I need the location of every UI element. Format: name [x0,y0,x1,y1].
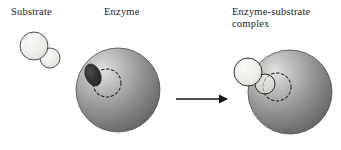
substrate-big-circle [20,32,48,60]
free-enzyme-group [76,48,160,132]
enzyme-sphere [76,48,160,132]
enzyme-substrate-diagram: Substrate Enzyme Enzyme-substratecomplex [0,0,341,150]
complex-substrate-big-circle [234,58,262,86]
complex-group [234,50,332,134]
free-substrate-group [20,32,60,68]
diagram-canvas [0,0,341,150]
